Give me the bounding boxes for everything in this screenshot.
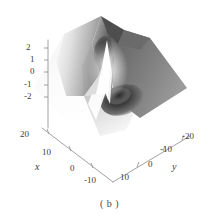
z-tick-label-1: 1 [30,55,35,64]
x-tick-label-10: 10 [42,148,51,157]
y-tick-label-0: 0 [148,160,153,169]
x-tick-label-20: 20 [20,130,29,139]
y-tick-label-10: 10 [120,173,129,182]
surface-mesh [34,16,187,136]
z-tick-label-0: 0 [30,67,35,76]
z-tick-label-neg1: -1 [24,80,32,89]
x-axis-line [42,128,113,182]
x-axis-title: x [35,162,39,172]
figure-panel: 2 1 0 -1 -2 20 10 0 -10 10 0 -10 -20 x y… [0,0,219,222]
y-tick-label-neg20: -20 [182,132,194,141]
surface-plot-3d [0,0,219,222]
z-tick-label-2: 2 [26,43,31,52]
x-tick-label-0: 0 [70,164,75,173]
z-tick-label-neg2: -2 [24,92,32,101]
y-axis-title: y [172,162,176,172]
x-tick-label-neg10: -10 [84,176,96,185]
y-tick-label-neg10: -10 [160,145,172,154]
figure-caption: ( b ) [0,198,219,209]
